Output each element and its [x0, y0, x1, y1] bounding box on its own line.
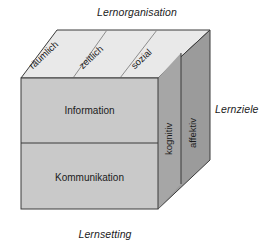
front-section-label-information: Information — [21, 105, 158, 116]
axis-label-lernsetting: Lernsetting — [0, 228, 210, 240]
diagram-canvas: Lernorganisation Lernsetting Lernziele I… — [0, 0, 274, 249]
front-section-label-kommunikation: Kommunikation — [21, 172, 158, 183]
right-section-label-kognitiv: kognitiv — [163, 123, 174, 155]
right-section-label-affektiv: affektiv — [187, 118, 198, 148]
axis-label-lernorganisation: Lernorganisation — [0, 6, 274, 18]
cube-illustration — [0, 0, 274, 249]
axis-label-lernziele: Lernziele — [215, 103, 259, 115]
